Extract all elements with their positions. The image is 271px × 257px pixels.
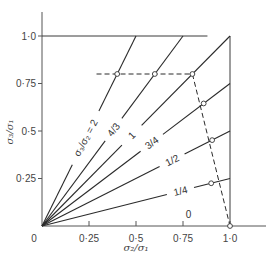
ratio-line: 4/3 [42, 36, 183, 226]
line-label: 1/4 [172, 184, 189, 198]
stress-ratio-chart: 00·250·50·751·0 0·250·50·751·0 σ₂/σ₁ σ₃/… [0, 0, 271, 257]
x-tick-label: 0 [31, 233, 37, 244]
marked-point [190, 72, 195, 77]
y-tick-label: 0·5 [22, 126, 37, 137]
line-segment [142, 36, 230, 125]
marked-point [210, 138, 215, 143]
x-ticks: 00·250·50·751·0 [31, 221, 237, 244]
x-axis-label: σ₂/σ₁ [123, 242, 148, 253]
line-label: 1 [126, 129, 138, 141]
line-segment [42, 145, 122, 226]
line-label: 1/2 [163, 152, 181, 168]
x-tick-label: 1·0 [223, 233, 238, 244]
ratio-line: σ₃/σ₂ = 2 [42, 36, 136, 226]
line-segment [42, 151, 141, 226]
line-label: 4/3 [105, 120, 122, 138]
x-tick-label: 0·75 [173, 233, 193, 244]
line-label: σ₃/σ₂ = 2 [71, 117, 100, 158]
line-segment [42, 167, 160, 226]
marked-point [152, 72, 157, 77]
line-segment [42, 165, 72, 226]
y-axis-label: σ₃/σ₁ [4, 119, 15, 144]
marked-point [228, 224, 233, 229]
line-segment [122, 36, 183, 118]
y-tick-label: 0·75 [16, 78, 36, 89]
x-tick-label: 0·25 [79, 233, 99, 244]
line-segment [42, 194, 167, 226]
line-label: 3/4 [143, 134, 161, 151]
ratio-line: 1 [42, 36, 230, 226]
marked-point [201, 101, 206, 106]
y-tick-label: 1·0 [22, 31, 37, 42]
line-label: 0 [186, 209, 192, 220]
y-tick-label: 0·25 [16, 173, 36, 184]
ratio-line: 1/2 [42, 131, 230, 226]
ratio-line: 0 [186, 209, 192, 220]
line-segment [185, 131, 230, 154]
ratio-line: 1/4 [42, 179, 230, 227]
marked-point [115, 72, 120, 77]
y-ticks: 0·250·50·751·0 [16, 31, 42, 185]
ratio-lines: σ₃/σ₂ = 24/313/41/21/40 [42, 36, 230, 226]
marked-point [209, 181, 214, 186]
